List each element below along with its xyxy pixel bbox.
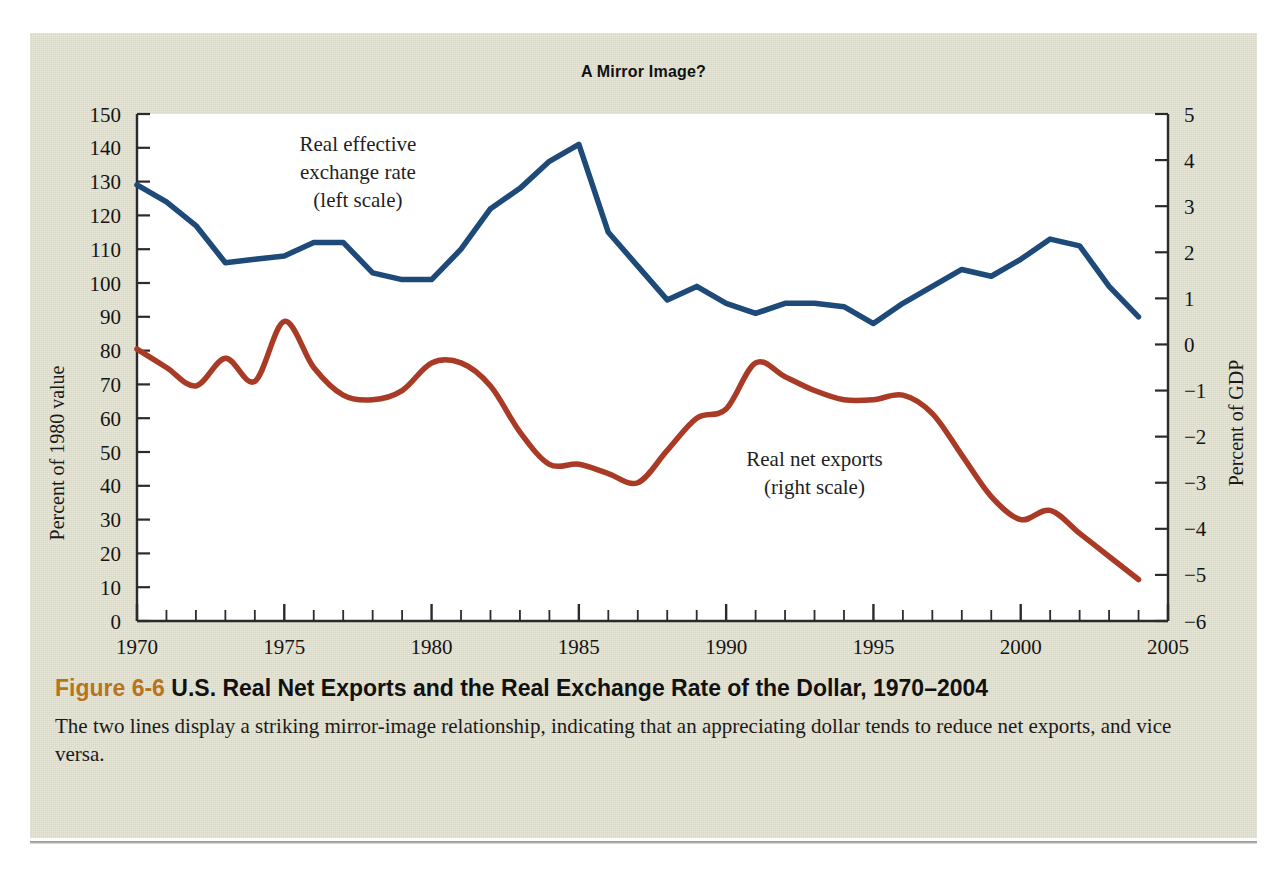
annotation-line: Real effective bbox=[300, 132, 417, 156]
left-tick-label: 0 bbox=[111, 610, 122, 634]
right-tick-label: 0 bbox=[1184, 333, 1195, 357]
annotation-line: (left scale) bbox=[313, 188, 402, 212]
x-tick-label: 1980 bbox=[411, 635, 453, 659]
bottom-divider bbox=[30, 841, 1257, 844]
plot-background bbox=[137, 114, 1168, 621]
right-tick-label: 2 bbox=[1184, 241, 1195, 265]
right-tick-label: −2 bbox=[1184, 425, 1206, 449]
figure-caption: Figure 6-6 U.S. Real Net Exports and the… bbox=[55, 673, 1205, 768]
right-tick-label: 3 bbox=[1184, 195, 1195, 219]
figure-number: Figure 6-6 bbox=[55, 675, 165, 701]
x-tick-label: 1990 bbox=[705, 635, 747, 659]
left-tick-label: 60 bbox=[100, 407, 121, 431]
left-tick-label: 30 bbox=[100, 508, 121, 532]
caption-title: U.S. Real Net Exports and the Real Excha… bbox=[165, 675, 988, 701]
annotation-real-effective-exchange-rate: Real effectiveexchange rate(left scale) bbox=[300, 132, 417, 212]
x-tick-label: 1985 bbox=[558, 635, 600, 659]
left-tick-label: 70 bbox=[100, 373, 121, 397]
left-tick-label: 120 bbox=[90, 204, 122, 228]
left-tick-label: 90 bbox=[100, 305, 121, 329]
right-tick-label: 1 bbox=[1184, 287, 1195, 311]
left-tick-label: 20 bbox=[100, 542, 121, 566]
right-tick-label: −6 bbox=[1184, 610, 1206, 634]
x-tick-label: 1970 bbox=[116, 635, 158, 659]
right-tick-label: 4 bbox=[1184, 149, 1195, 173]
left-tick-label: 10 bbox=[100, 576, 121, 600]
annotation-line: Real net exports bbox=[746, 447, 882, 471]
left-tick-label: 100 bbox=[90, 272, 122, 296]
x-tick-label: 2005 bbox=[1147, 635, 1189, 659]
left-tick-label: 150 bbox=[90, 103, 122, 127]
right-tick-label: −1 bbox=[1184, 379, 1206, 403]
annotation-line: exchange rate bbox=[300, 160, 416, 184]
left-tick-label: 40 bbox=[100, 474, 121, 498]
left-tick-label: 110 bbox=[90, 238, 121, 262]
chart-plot-area: 0102030405060708090100110120130140150 −6… bbox=[30, 33, 1257, 733]
left-tick-label: 140 bbox=[90, 136, 122, 160]
caption-body: The two lines display a striking mirror-… bbox=[55, 712, 1205, 768]
x-axis-tick-labels: 19701975198019851990199520002005 bbox=[116, 635, 1189, 659]
right-axis-title: Percent of GDP bbox=[1225, 360, 1247, 487]
x-tick-label: 1975 bbox=[263, 635, 305, 659]
right-tick-label: 5 bbox=[1184, 103, 1195, 127]
x-tick-label: 2000 bbox=[1000, 635, 1042, 659]
right-tick-label: −3 bbox=[1184, 471, 1206, 495]
caption-heading: Figure 6-6 U.S. Real Net Exports and the… bbox=[55, 673, 1205, 704]
left-tick-label: 130 bbox=[90, 170, 122, 194]
annotation-line: (right scale) bbox=[764, 475, 865, 499]
left-tick-label: 50 bbox=[100, 441, 121, 465]
figure-panel: A Mirror Image? 010203040506070809010011… bbox=[30, 33, 1257, 838]
left-axis-title: Percent of 1980 value bbox=[46, 365, 68, 540]
left-tick-label: 80 bbox=[100, 339, 121, 363]
x-tick-label: 1995 bbox=[852, 635, 894, 659]
right-tick-label: −4 bbox=[1184, 517, 1207, 541]
right-tick-label: −5 bbox=[1184, 563, 1206, 587]
